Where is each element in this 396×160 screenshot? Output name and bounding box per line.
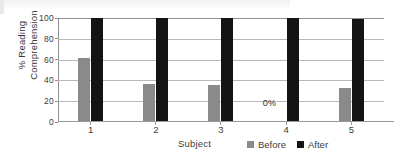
- bar-before-subject-5[interactable]: [339, 88, 351, 122]
- legend-item-after[interactable]: After: [297, 139, 328, 150]
- bar-before-subject-1[interactable]: [78, 58, 90, 122]
- y-tick-label-40: 40: [32, 75, 54, 85]
- legend-label-before: Before: [258, 139, 286, 150]
- bar-before-subject-2[interactable]: [143, 84, 155, 122]
- x-tick-label-5: 5: [331, 124, 371, 135]
- y-tick-label-0: 0: [32, 117, 54, 127]
- bar-after-subject-3[interactable]: [221, 18, 233, 122]
- bar-after-subject-2[interactable]: [156, 18, 168, 122]
- scan-artifact-edge: [0, 0, 4, 14]
- x-tick-label-2: 2: [136, 124, 176, 135]
- x-tick-label-1: 1: [71, 124, 111, 135]
- chart-legend: Before After: [247, 139, 328, 150]
- bar-after-subject-1[interactable]: [91, 18, 103, 122]
- x-tick-label-4: 4: [266, 124, 306, 135]
- y-axis-title-line-1: % Reading: [16, 21, 28, 69]
- bar-before-subject-3[interactable]: [208, 85, 220, 122]
- y-tick-label-20: 20: [32, 96, 54, 106]
- y-tick-label-80: 80: [32, 34, 54, 44]
- x-axis-tick-labels: 1 2 3 4 5: [58, 124, 384, 138]
- plot-area: 0%: [58, 18, 384, 122]
- y-axis-tick-labels: 100 80 60 40 20 0: [30, 18, 54, 122]
- bar-chart-figure: % Reading Comprehension 100 80 60 40 20 …: [0, 0, 396, 160]
- gray-square-swatch-icon: [247, 141, 254, 148]
- bar-after-subject-5[interactable]: [352, 19, 364, 122]
- bar-after-subject-4[interactable]: [287, 18, 299, 122]
- bar-group-subject-5: [319, 18, 384, 122]
- y-tick-mark-0: [55, 122, 58, 123]
- legend-item-before[interactable]: Before: [247, 139, 286, 150]
- black-square-swatch-icon: [297, 141, 304, 148]
- y-tick-label-60: 60: [32, 55, 54, 65]
- y-tick-label-100: 100: [32, 13, 54, 23]
- zero-percent-annotation: 0%: [263, 98, 277, 108]
- legend-label-after: After: [308, 139, 328, 150]
- bar-group-subject-2: [123, 18, 188, 122]
- bar-group-subject-1: [58, 18, 123, 122]
- x-axis-baseline-extension: [58, 121, 394, 122]
- x-axis-title: Subject: [178, 138, 211, 149]
- x-tick-label-3: 3: [201, 124, 241, 135]
- bar-group-subject-3: [188, 18, 253, 122]
